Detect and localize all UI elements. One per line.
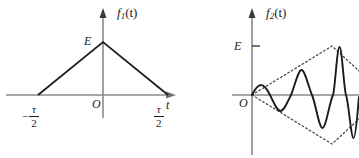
f1-origin-label: O <box>92 98 101 110</box>
chart-panel-f2: f2(t) E O <box>180 0 359 158</box>
f1-function-label: f1(t) <box>117 6 137 21</box>
f1-amplitude-label-E: E <box>84 35 91 47</box>
f1-xtick-right-tau-over-2: τ 2 <box>154 104 164 129</box>
f1-xtick-left-neg-tau-over-2: − τ 2 <box>22 104 39 129</box>
f1-x-axis <box>6 92 176 99</box>
f2-amplitude-label-E: E <box>234 40 241 52</box>
f2-origin-label: O <box>239 97 248 109</box>
f1-x-axis-label: t <box>166 99 169 111</box>
f1-xtick-right-fraction: τ 2 <box>154 104 164 129</box>
f1-plot-svg <box>0 0 180 158</box>
f2-function-label: f2(t) <box>266 6 286 21</box>
f2-curve <box>252 47 359 138</box>
f2-fn-arg: (t) <box>274 5 286 20</box>
f2-plot-svg <box>180 0 359 158</box>
figure-container: f1(t) E O t − τ 2 τ 2 <box>0 0 359 158</box>
chart-panel-f1: f1(t) E O t − τ 2 τ 2 <box>0 0 180 158</box>
f1-xtick-right-denominator: 2 <box>154 117 164 129</box>
f1-xtick-right-numerator: τ <box>155 104 163 116</box>
f1-xtick-left-fraction: τ 2 <box>29 104 39 129</box>
f1-xtick-left-denominator: 2 <box>29 117 39 129</box>
f1-xtick-left-sign: − <box>22 111 28 122</box>
f1-fn-arg: (t) <box>125 5 137 20</box>
f1-xtick-left-numerator: τ <box>30 104 38 116</box>
f2-y-axis <box>249 8 256 155</box>
